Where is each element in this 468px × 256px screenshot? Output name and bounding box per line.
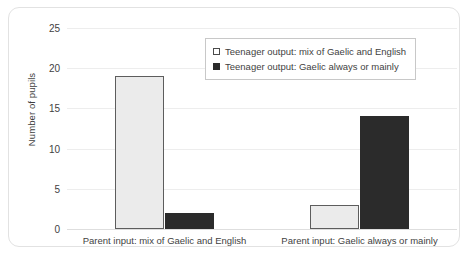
bar (115, 76, 164, 229)
legend-item[interactable]: Teenager output: mix of Gaelic and Engli… (213, 44, 406, 59)
bar (360, 116, 409, 229)
x-axis-category-labels: Parent input: mix of Gaelic and EnglishP… (67, 235, 457, 253)
y-axis-tick-label: 10 (49, 143, 60, 154)
legend-item[interactable]: Teenager output: Gaelic always or mainly (213, 59, 406, 74)
chart-frame: Number of pupils 0510152025 Parent input… (8, 7, 460, 247)
legend-swatch-icon (213, 48, 220, 55)
legend-label: Teenager output: Gaelic always or mainly (225, 61, 399, 72)
y-axis-tick-label: 0 (54, 224, 60, 235)
legend-label: Teenager output: mix of Gaelic and Engli… (225, 46, 406, 57)
bar (165, 213, 214, 229)
y-axis-tick-label: 20 (49, 63, 60, 74)
legend-swatch-icon (213, 63, 220, 70)
y-axis-tick-label: 5 (54, 183, 60, 194)
chart-legend: Teenager output: mix of Gaelic and Engli… (205, 38, 416, 80)
x-axis-category-label: Parent input: Gaelic always or mainly (281, 235, 437, 246)
x-axis-category-label: Parent input: mix of Gaelic and English (83, 235, 247, 246)
chart-screenshot: Number of pupils 0510152025 Parent input… (0, 0, 468, 256)
y-axis-title: Number of pupils (26, 60, 37, 160)
gridline (67, 229, 457, 230)
y-axis-tick-label: 25 (49, 23, 60, 34)
y-axis-tick-label: 15 (49, 103, 60, 114)
gridline (67, 28, 457, 29)
bar (310, 205, 359, 229)
